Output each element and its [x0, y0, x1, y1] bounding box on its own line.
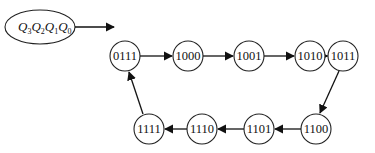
- state-node-1110: 1110: [187, 114, 217, 144]
- state-node-0111: 0111: [110, 41, 140, 71]
- state-label: 1111: [137, 122, 161, 136]
- state-node-1101: 1101: [244, 114, 274, 144]
- state-node-1010: 1010: [295, 41, 325, 71]
- state-label: 1101: [247, 122, 272, 136]
- state-diagram: Q3Q2Q1Q0 0111 1000 1001 1010 1011 1100 1…: [0, 0, 375, 153]
- state-label: 1011: [331, 49, 356, 63]
- state-label: 1010: [298, 49, 323, 63]
- state-node-1100: 1100: [301, 114, 331, 144]
- state-label: 1001: [237, 49, 262, 63]
- state-node-1111: 1111: [134, 114, 164, 144]
- state-label: 1110: [190, 122, 214, 136]
- state-label: 0111: [113, 49, 137, 63]
- state-node-1000: 1000: [173, 41, 203, 71]
- state-node-1011: 1011: [328, 41, 358, 71]
- legend-text: Q3Q2Q1Q0: [18, 19, 72, 36]
- edge-1011-1100: [320, 71, 339, 113]
- state-variable-legend: Q3Q2Q1Q0: [5, 10, 75, 44]
- state-node-1001: 1001: [234, 41, 264, 71]
- edge-1111-0111: [129, 72, 143, 114]
- state-label: 1100: [304, 122, 329, 136]
- state-label: 1000: [176, 49, 201, 63]
